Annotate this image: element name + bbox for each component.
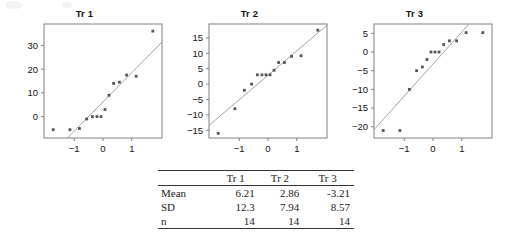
svg-text:−1: −1 <box>399 143 410 154</box>
svg-text:−15: −15 <box>352 102 368 113</box>
table-row: n 14 14 14 <box>158 214 354 229</box>
svg-text:−15: −15 <box>187 125 203 136</box>
svg-text:0: 0 <box>265 143 270 154</box>
svg-text:30: 30 <box>27 40 38 51</box>
table-row-label-n: n <box>158 214 214 229</box>
svg-text:1: 1 <box>459 143 464 154</box>
svg-text:1: 1 <box>294 143 299 154</box>
table-col-header-tr1: Tr 1 <box>214 171 258 186</box>
plot-title-tr2: Tr 2 <box>167 8 332 19</box>
plot-title-tr1: Tr 1 <box>2 8 167 19</box>
plot-title-tr3: Tr 3 <box>332 8 497 19</box>
table-cell-sd-tr1: 12.3 <box>214 200 258 214</box>
table-header-row: Tr 1 Tr 2 Tr 3 <box>158 171 354 186</box>
table-row-label-mean: Mean <box>158 186 214 201</box>
plot-canvas-tr2: −15−10−5051015−101 <box>167 20 332 168</box>
svg-text:10: 10 <box>192 48 203 59</box>
qq-plot-tr2: Tr 2 −15−10−5051015−101 <box>167 8 332 168</box>
svg-text:0: 0 <box>430 143 435 154</box>
summary-table-wrapper: Tr 1 Tr 2 Tr 3 Mean 6.21 2.86 -3.21 SD 1… <box>158 170 358 229</box>
plot-canvas-tr3: −20−15−10−505−101 <box>332 20 497 168</box>
table-cell-n-tr1: 14 <box>214 214 258 229</box>
svg-text:10: 10 <box>27 87 38 98</box>
svg-text:−5: −5 <box>192 94 203 105</box>
qq-plot-tr1: Tr 1 0102030−101 <box>2 8 167 168</box>
table-col-header-tr2: Tr 2 <box>259 171 303 186</box>
qq-plot-panel-group: Tr 1 0102030−101 Tr 2 −15−10−5051015−101… <box>0 0 505 170</box>
table-cell-mean-tr3: -3.21 <box>303 186 354 201</box>
qq-plot-tr3: Tr 3 −20−15−10−505−101 <box>332 8 497 168</box>
table-row: Mean 6.21 2.86 -3.21 <box>158 186 354 201</box>
table-col-header-tr3: Tr 3 <box>303 171 354 186</box>
table-cell-sd-tr3: 8.57 <box>303 200 354 214</box>
svg-text:5: 5 <box>198 63 203 74</box>
table-cell-mean-tr1: 6.21 <box>214 186 258 201</box>
svg-text:0: 0 <box>363 46 368 57</box>
svg-text:−20: −20 <box>352 121 368 132</box>
svg-text:−5: −5 <box>357 65 368 76</box>
svg-text:20: 20 <box>27 64 38 75</box>
table-row: SD 12.3 7.94 8.57 <box>158 200 354 214</box>
svg-text:−10: −10 <box>187 109 203 120</box>
table-cell-n-tr2: 14 <box>259 214 303 229</box>
svg-text:1: 1 <box>129 143 134 154</box>
svg-text:−1: −1 <box>234 143 245 154</box>
svg-text:−10: −10 <box>352 84 368 95</box>
plot-canvas-tr1: 0102030−101 <box>2 20 167 168</box>
summary-table: Tr 1 Tr 2 Tr 3 Mean 6.21 2.86 -3.21 SD 1… <box>158 170 354 229</box>
table-row-label-sd: SD <box>158 200 214 214</box>
svg-text:0: 0 <box>33 111 38 122</box>
table-cell-sd-tr2: 7.94 <box>259 200 303 214</box>
table-cell-n-tr3: 14 <box>303 214 354 229</box>
svg-text:0: 0 <box>100 143 105 154</box>
svg-text:5: 5 <box>363 28 368 39</box>
table-cell-mean-tr2: 2.86 <box>259 186 303 201</box>
table-corner-cell <box>158 171 214 186</box>
svg-text:0: 0 <box>198 78 203 89</box>
svg-text:−1: −1 <box>69 143 80 154</box>
svg-text:15: 15 <box>192 32 203 43</box>
